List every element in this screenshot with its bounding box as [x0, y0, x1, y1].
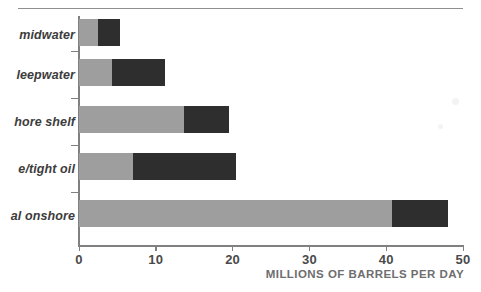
x-tick-mark [79, 245, 80, 251]
x-tick-mark [309, 245, 310, 251]
x-tick-label-0: 0 [75, 252, 82, 267]
category-label-onshore: al onshore [11, 209, 75, 223]
y-tick-mark [71, 51, 78, 52]
category-label-midwater: midwater [19, 28, 75, 42]
bar-segment-light [79, 59, 112, 86]
bar-segment-dark [133, 153, 237, 180]
bar-segment-light [79, 200, 392, 227]
bar-segment-dark [184, 106, 229, 133]
y-tick-mark [71, 145, 78, 146]
value-axis-line [78, 245, 464, 247]
x-tick-label-40: 40 [379, 252, 394, 267]
bar-segment-dark [392, 200, 448, 227]
x-tick-mark [386, 245, 387, 251]
bar-segment-light [79, 153, 133, 180]
x-tick-label-20: 20 [225, 252, 240, 267]
category-label-shale-tight-oil: e/tight oil [18, 162, 75, 176]
bar-chart: 0 10 20 30 40 50 midwater leepwater hore… [0, 0, 481, 292]
bar-segment-dark [112, 59, 165, 86]
x-tick-mark [155, 245, 156, 251]
x-tick-label-30: 30 [302, 252, 317, 267]
y-tick-mark [71, 98, 78, 99]
category-label-deepwater: leepwater [16, 68, 75, 82]
bar-segment-dark [98, 19, 120, 46]
x-axis-title: MILLIONS OF BARRELS PER DAY [0, 268, 464, 280]
bar-segment-light [79, 106, 184, 133]
x-tick-mark [463, 245, 464, 251]
x-tick-label-50: 50 [456, 252, 471, 267]
x-tick-mark [232, 245, 233, 251]
category-label-shore-shelf: hore shelf [14, 115, 75, 129]
bar-segment-light [79, 19, 98, 46]
x-tick-label-10: 10 [148, 252, 163, 267]
y-tick-mark [71, 192, 78, 193]
